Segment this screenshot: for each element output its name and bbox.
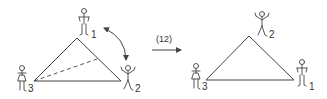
- left-label-1: 1: [91, 29, 97, 40]
- operation-label: (12): [156, 34, 172, 44]
- right-label-1: 1: [309, 81, 315, 92]
- left-label-3: 3: [28, 83, 34, 94]
- swap-arrow-icon: [104, 28, 126, 60]
- permutation-diagram: 1 2 3 (12) 2: [0, 0, 327, 99]
- right-label-3: 3: [202, 81, 208, 92]
- dashed-median: [34, 59, 97, 81]
- left-label-2: 2: [135, 83, 141, 94]
- figure-person-3-left: [18, 66, 26, 92]
- right-label-2: 2: [269, 29, 275, 40]
- figure-person-2-right: [255, 12, 269, 37]
- left-triangle: [34, 38, 121, 81]
- right-triangle: [206, 36, 294, 80]
- figure-person-1-left: [79, 9, 89, 36]
- figure-person-1-right: [297, 60, 307, 87]
- figure-person-2-left: [121, 66, 135, 91]
- figure-person-3-right: [192, 64, 200, 90]
